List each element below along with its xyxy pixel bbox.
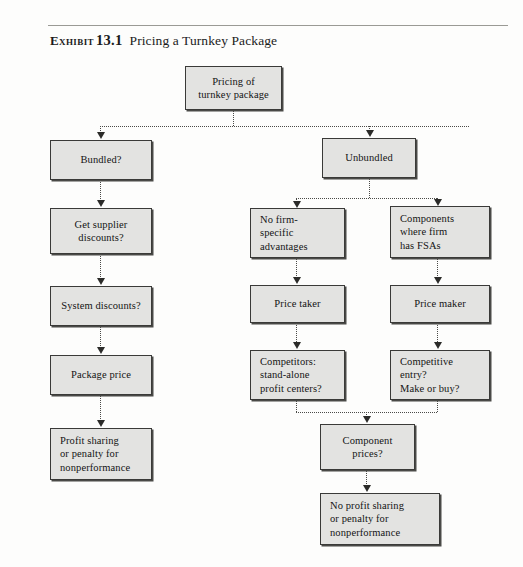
connector-supplier-system (100, 254, 101, 279)
node-competitors-stand-alone-profit-centers: Competitors: stand-alone profit centers? (250, 350, 345, 400)
node-label: Get supplier discounts? (75, 218, 128, 245)
exhibit-page: Exhibit13.1Pricing a Turnkey Package Pri… (0, 0, 523, 567)
exhibit-caption: Pricing a Turnkey Package (130, 33, 278, 48)
node-label: Components where firm has FSAs (400, 212, 454, 252)
node-competitive-entry-make-or-buy: Competitive entry? Make or buy? (390, 350, 490, 400)
connector-system-package (100, 326, 101, 348)
connector-unbundled-split (296, 198, 437, 199)
node-label: Pricing of turnkey package (198, 75, 269, 102)
node-label: No firm- specific advantages (260, 213, 308, 253)
node-component-prices: Component prices? (320, 424, 415, 470)
node-unbundled: Unbundled (322, 138, 416, 178)
connector-nofirm-pricetaker (296, 258, 297, 278)
arrowhead-no-firm-sa (293, 201, 301, 208)
connector-components-pricemaker (437, 258, 438, 278)
arrowhead-unbundled (366, 130, 374, 137)
arrowhead-profit-sharing (97, 420, 105, 427)
connector-package-profit (100, 395, 101, 421)
arrowhead-bundled (97, 132, 105, 139)
node-label: Unbundled (345, 151, 393, 164)
connector-competitors-down (296, 400, 297, 412)
header-rule (48, 25, 508, 26)
node-label: No profit sharing or penalty for nonperf… (330, 499, 404, 539)
node-label: Package price (71, 368, 131, 381)
connector-pricemaker-competitive (437, 323, 438, 342)
connector-bundled-supplier (100, 180, 101, 201)
node-label: Profit sharing or penalty for nonperform… (60, 434, 130, 474)
connector-competitive-down (437, 400, 438, 412)
node-label: Price taker (274, 297, 320, 310)
arrowhead-price-maker (434, 277, 442, 284)
connector-root-stem (233, 110, 234, 126)
node-label: Competitive entry? Make or buy? (400, 355, 460, 395)
arrowhead-package-price (97, 347, 105, 354)
arrowhead-component-prices (363, 416, 371, 423)
node-system-discounts: System discounts? (50, 286, 152, 326)
arrowhead-competitive (434, 342, 442, 349)
arrowhead-competitors (293, 342, 301, 349)
node-label: Competitors: stand-alone profit centers? (260, 355, 322, 395)
connector-unbundled-stem (369, 178, 370, 198)
node-pricing-of-turnkey-package: Pricing of turnkey package (185, 66, 282, 110)
connector-root-split (100, 126, 469, 127)
arrowhead-system-discounts (97, 278, 105, 285)
node-label: Bundled? (80, 153, 121, 166)
node-no-profit-sharing-or-penalty: No profit sharing or penalty for nonperf… (320, 493, 440, 545)
arrowhead-get-supplier (97, 200, 105, 207)
arrowhead-no-profit-sharing (363, 485, 371, 492)
node-bundled: Bundled? (50, 140, 152, 180)
node-label: System discounts? (61, 299, 141, 312)
node-get-supplier-discounts: Get supplier discounts? (50, 208, 152, 254)
node-profit-sharing-or-penalty: Profit sharing or penalty for nonperform… (50, 428, 152, 480)
node-components-where-firm-has-fsas: Components where firm has FSAs (390, 206, 490, 258)
arrowhead-price-taker (293, 277, 301, 284)
node-price-maker: Price maker (390, 285, 490, 323)
arrowhead-components-fsa (434, 199, 442, 206)
connector-component-noprofit (366, 470, 367, 486)
exhibit-number: 13.1 (96, 32, 123, 48)
exhibit-title: Exhibit13.1Pricing a Turnkey Package (50, 32, 277, 49)
node-label: Price maker (414, 297, 466, 310)
node-label: Component prices? (343, 434, 393, 461)
node-price-taker: Price taker (250, 285, 345, 323)
node-no-firm-specific-advantages: No firm- specific advantages (250, 208, 345, 258)
connector-pricetaker-competitors (296, 323, 297, 342)
node-package-price: Package price (50, 355, 152, 395)
exhibit-label: Exhibit (50, 33, 94, 48)
